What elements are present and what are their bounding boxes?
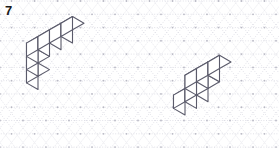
isometric-worksheet-canvas: 7 <box>0 0 279 148</box>
right-solid <box>174 55 232 115</box>
question-number-label: 7 <box>5 4 12 18</box>
left-solid <box>27 17 85 90</box>
cube-figures-layer <box>0 0 279 148</box>
